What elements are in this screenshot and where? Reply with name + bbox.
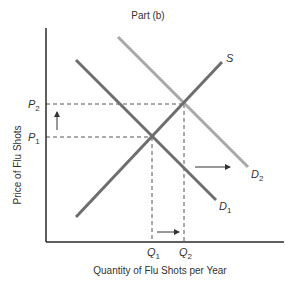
q1-label: Q1 [147,246,161,261]
p2-label: P2 [28,98,40,113]
d1-label: D1 [219,200,232,215]
d2-label: D2 [251,168,264,183]
x-axis-title: Quantity of Flu Shots per Year [93,265,227,276]
demand-curve-d1 [76,60,216,200]
supply-label: S [226,52,234,64]
supply-curve [76,62,222,217]
y-axis-title: Price of Flu Shots [12,126,23,205]
supply-demand-chart: P2 P1 Q1 Q2 S D2 D1 Quantity of Flu Shot… [0,0,296,290]
q2-label: Q2 [179,246,193,261]
p1-label: P1 [28,131,40,146]
